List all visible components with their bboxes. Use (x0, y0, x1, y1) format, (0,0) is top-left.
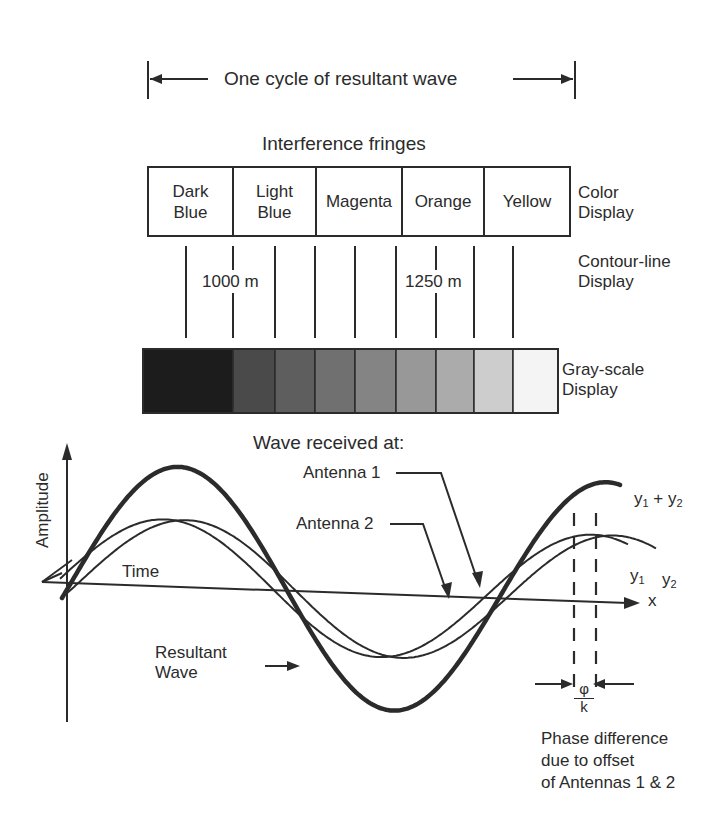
grayscale-band (513, 349, 558, 413)
grayscale-band (396, 349, 436, 413)
sum-y2: y (668, 489, 677, 508)
resultant-label-line2: Wave (155, 663, 227, 683)
x-axis-label: x (648, 591, 657, 611)
x-axis-arrow-icon (624, 597, 640, 609)
antenna2-wave (66, 520, 656, 658)
color-display-label: Color Display (578, 183, 634, 223)
color-cell-magenta: Magenta (316, 167, 402, 236)
phase-caption: Phase difference due to offset of Antenn… (541, 728, 675, 794)
y1-base: y (630, 566, 639, 585)
color-display-label-line2: Display (578, 203, 634, 223)
resultant-wave-label: Resultant Wave (155, 643, 227, 683)
plot-axes (42, 443, 640, 722)
phase-right-arrow-icon (593, 679, 605, 689)
grayscale-display-label-line2: Display (562, 380, 644, 400)
grayscale-bands (143, 349, 558, 413)
wave-plot-title: Wave received at: (253, 432, 404, 454)
label-pointers (265, 473, 634, 689)
antenna2-label: Antenna 2 (296, 514, 374, 534)
grayscale-display-label-line1: Gray-scale (562, 360, 644, 380)
sum-y2-sub: 2 (677, 497, 683, 509)
color-display-label-line1: Color (578, 183, 634, 203)
amplitude-axis-arrow-icon (62, 443, 72, 460)
grayscale-band (436, 349, 474, 413)
arrow-left-icon (150, 74, 162, 84)
grayscale-band (275, 349, 315, 413)
y2-sub: 2 (671, 578, 677, 590)
sum-y1: y (634, 489, 643, 508)
y1-label: y1 (630, 566, 645, 590)
phase-fraction: φ k (574, 681, 594, 715)
color-cell-light-blue: Light Blue (233, 167, 316, 236)
antenna1-label: Antenna 1 (303, 463, 381, 483)
resultant-arrow-icon (287, 661, 300, 671)
antenna1-arrow-icon (472, 571, 483, 588)
contour-label: 1250 m (405, 272, 462, 292)
phase-left-arrow-icon (561, 679, 573, 689)
phase-caption-line3: of Antennas 1 & 2 (541, 772, 675, 794)
interference-diagram (0, 0, 720, 822)
contour-label: 1000 m (202, 272, 259, 292)
sum-operator: + (649, 489, 668, 508)
contour-display-label-line2: Display (578, 272, 671, 292)
contour-display-label: Contour-line Display (578, 252, 671, 292)
y2-base: y (662, 570, 671, 589)
color-cell-orange: Orange (402, 167, 484, 236)
x-axis (42, 582, 628, 603)
y1-sub: 1 (639, 574, 645, 586)
phase-caption-line2: due to offset (541, 750, 675, 772)
antenna1-wave (60, 519, 628, 657)
grayscale-band (143, 349, 233, 413)
arrow-right-icon (561, 74, 573, 84)
grayscale-band (233, 349, 275, 413)
resultant-wave (62, 467, 620, 711)
cycle-span-label: One cycle of resultant wave (218, 68, 463, 90)
contour-lines (186, 246, 513, 338)
grayscale-band (355, 349, 396, 413)
y-axis-label: Amplitude (33, 472, 53, 548)
color-cell-dark-blue: Dark Blue (148, 167, 233, 236)
antenna2-pointer (390, 524, 447, 593)
fringes-title: Interference fringes (262, 133, 426, 155)
phase-caption-line1: Phase difference (541, 728, 675, 750)
phase-numerator: φ (574, 681, 594, 699)
sum-label: y1 + y2 (634, 489, 683, 513)
resultant-label-line1: Resultant (155, 643, 227, 663)
y2-label: y2 (662, 570, 677, 594)
contour-display-label-line1: Contour-line (578, 252, 671, 272)
phase-denominator: k (574, 699, 594, 715)
grayscale-band (474, 349, 513, 413)
color-cell-yellow: Yellow (484, 167, 570, 236)
wave-curves (42, 467, 656, 711)
time-label: Time (122, 562, 159, 582)
grayscale-display-label: Gray-scale Display (562, 360, 644, 400)
grayscale-band (315, 349, 355, 413)
